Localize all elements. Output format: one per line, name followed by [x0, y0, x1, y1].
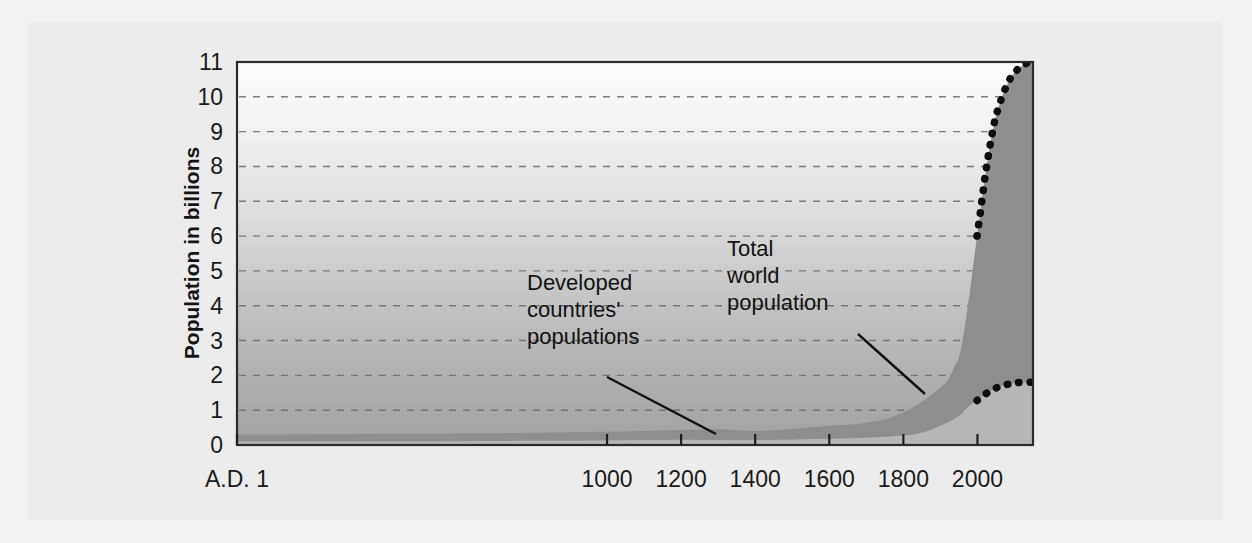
y-axis-tick-label: 7: [210, 188, 223, 214]
annotation-line: world: [726, 263, 780, 288]
annotation-line: population: [727, 290, 829, 315]
annotation-line: populations: [527, 324, 640, 349]
x-axis-tick-label: 2000: [952, 466, 1003, 492]
x-axis-tick-label: 1000: [581, 466, 632, 492]
y-axis-tick-label: 3: [210, 328, 223, 354]
y-axis-tick-label: 8: [210, 153, 223, 179]
annotation-line: Developed: [527, 270, 632, 295]
x-axis-tick-label: 1200: [656, 466, 707, 492]
y-axis-tick-label: 10: [197, 84, 223, 110]
chart-canvas: 01234567891011 A.D. 11000120014001600180…: [0, 0, 1252, 543]
y-axis-tick-label: 6: [210, 223, 223, 249]
y-axis-tick-label: 5: [210, 258, 223, 284]
y-axis-tick-label: 11: [199, 49, 223, 75]
y-axis-tick-label: 2: [210, 362, 223, 388]
y-axis-tick-label: 1: [210, 397, 223, 423]
plot-background: [237, 62, 1033, 445]
annotation-line: Total: [727, 236, 773, 261]
y-axis-tick-label: 9: [210, 119, 223, 145]
x-axis-tick-label: 1400: [730, 466, 781, 492]
x-axis-tick-label: 1600: [804, 466, 855, 492]
annotation-line: countries': [527, 297, 620, 322]
y-axis-title: Population in billions: [180, 147, 203, 359]
y-axis-tick-label: 0: [210, 432, 223, 458]
x-axis-tick-label: 1800: [878, 466, 929, 492]
x-axis-tick-label: A.D. 1: [205, 466, 269, 492]
y-axis-tick-label: 4: [210, 293, 223, 319]
population-growth-chart: 01234567891011 A.D. 11000120014001600180…: [0, 0, 1252, 543]
svg-text:Developed countries': Developed countries' populations: [527, 270, 640, 349]
